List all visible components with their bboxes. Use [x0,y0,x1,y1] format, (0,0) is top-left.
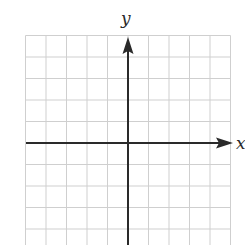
x-axis-label: x [236,133,245,153]
y-axis-label: y [120,8,131,28]
axes [26,37,233,245]
coordinate-plane: x y [0,0,245,245]
